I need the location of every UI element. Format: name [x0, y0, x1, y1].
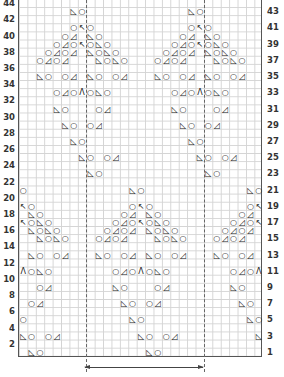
row-label-right: 21 [267, 185, 279, 195]
stitch-k2tog-icon: ◿ [238, 73, 246, 81]
row-label-left: 44 [0, 0, 15, 8]
stitch-ssk-icon: ◺ [170, 235, 178, 243]
stitch-yo-icon: ○ [95, 105, 103, 113]
stitch-ssk-icon: ◺ [213, 252, 221, 260]
row-label-right: 43 [267, 6, 279, 16]
row-label-right: 15 [267, 233, 279, 243]
stitch-sk2p-icon: ↖ [196, 24, 204, 32]
stitch-yo-icon: ○ [78, 8, 86, 16]
stitch-yo-icon: ○ [103, 57, 111, 65]
stitch-ssk-icon: ◺ [213, 57, 221, 65]
stitch-ssk-icon: ◺ [213, 89, 221, 97]
row-label-left: 28 [0, 128, 15, 138]
stitch-yo-icon: ○ [120, 284, 128, 292]
stitch-ssk-icon: ◺ [255, 333, 263, 341]
row-label-right: 19 [267, 201, 279, 211]
stitch-ssk-icon: ◺ [170, 105, 178, 113]
stitch-ssk-icon: ◺ [145, 349, 153, 357]
stitch-k2tog-icon: ◿ [246, 252, 254, 260]
stitch-yo-icon: ○ [196, 8, 204, 16]
stitch-ssk-icon: ◺ [27, 252, 35, 260]
stitch-ssk-icon: ◺ [112, 284, 120, 292]
stitch-yo-icon: ○ [221, 57, 229, 65]
stitch-yo-icon: ○ [44, 73, 52, 81]
row-label-left: 12 [0, 258, 15, 268]
row-label-left: 16 [0, 225, 15, 235]
row-label-right: 9 [267, 282, 273, 292]
stitch-yo-icon: ○ [179, 105, 187, 113]
stitch-k2tog-icon: ◿ [44, 284, 52, 292]
stitch-sk2p-icon: ↖ [78, 24, 86, 32]
stitch-k2tog-icon: ◿ [120, 235, 128, 243]
stitch-sk2p-icon: ↖ [255, 219, 263, 227]
stitch-yo-icon: ○ [255, 316, 263, 324]
stitch-yo-icon: ○ [61, 73, 69, 81]
stitch-k2tog-icon: ◿ [221, 105, 229, 113]
stitch-ssk-icon: ◺ [112, 57, 120, 65]
stitch-yo-icon: ○ [44, 235, 52, 243]
stitch-ssk-icon: ◺ [204, 73, 212, 81]
stitch-yo-icon: ○ [187, 89, 195, 97]
stitch-sk2p-icon: ↖ [137, 219, 145, 227]
row-label-left: 22 [0, 177, 15, 187]
row-label-right: 33 [267, 87, 279, 97]
stitch-ssk-icon: ◺ [154, 73, 162, 81]
stitch-yo-icon: ○ [103, 89, 111, 97]
stitch-k2tog-icon: ◿ [246, 227, 254, 235]
stitch-yo-icon: ○ [128, 268, 136, 276]
stitch-yo-icon: ○ [95, 73, 103, 81]
stitch-ssk-icon: ◺ [36, 73, 44, 81]
stitch-yo-icon: ○ [53, 89, 61, 97]
stitch-cdd-icon: Λ [19, 268, 27, 276]
stitch-yo-icon: ○ [36, 284, 44, 292]
stitch-cdd-icon: Λ [78, 89, 86, 97]
stitch-yo-icon: ○ [179, 235, 187, 243]
stitch-yo-icon: ○ [112, 268, 120, 276]
stitch-ssk-icon: ◺ [86, 49, 94, 57]
stitch-yo-icon: ○ [221, 154, 229, 162]
row-label-left: 4 [0, 323, 15, 333]
stitch-yo-icon: ○ [213, 235, 221, 243]
row-label-left: 26 [0, 144, 15, 154]
stitch-yo-icon: ○ [95, 235, 103, 243]
stitch-ssk-icon: ◺ [204, 49, 212, 57]
stitch-ssk-icon: ◺ [86, 170, 94, 178]
stitch-ssk-icon: ◺ [229, 57, 237, 65]
stitch-ssk-icon: ◺ [27, 227, 35, 235]
stitch-sk2p-icon: ↖ [78, 41, 86, 49]
stitch-ssk-icon: ◺ [145, 252, 153, 260]
stitch-yo-icon: ○ [221, 89, 229, 97]
stitch-k2tog-icon: ◿ [36, 300, 44, 308]
stitch-k2tog-icon: ◿ [187, 49, 195, 57]
stitch-cdd-icon: Λ [196, 89, 204, 97]
stitch-ssk-icon: ◺ [120, 300, 128, 308]
row-label-left: 8 [0, 290, 15, 300]
stitch-k2tog-icon: ◿ [179, 57, 187, 65]
stitch-ssk-icon: ◺ [145, 227, 153, 235]
stitch-yo-icon: ○ [187, 122, 195, 130]
row-label-right: 11 [267, 266, 279, 276]
stitch-ssk-icon: ◺ [19, 333, 27, 341]
knitting-chart-grid: ◺○○↖○○◿◺○○◿○↖○◺○○◿○◿◺○◺○○◿○◿◺○◺○◺○○◿◺○○◿… [18, 0, 262, 357]
stitch-k2tog-icon: ◿ [221, 235, 229, 243]
row-label-left: 18 [0, 209, 15, 219]
stitch-yo-icon: ○ [86, 154, 94, 162]
stitch-k2tog-icon: ◿ [69, 49, 77, 57]
stitch-sk2p-icon: ↖ [137, 203, 145, 211]
stitch-yo-icon: ○ [162, 235, 170, 243]
stitch-yo-icon: ○ [61, 235, 69, 243]
stitch-yo-icon: ○ [36, 252, 44, 260]
stitch-ssk-icon: ◺ [53, 105, 61, 113]
stitch-yo-icon: ○ [246, 300, 254, 308]
row-label-right: 29 [267, 120, 279, 130]
stitch-k2tog-icon: ◿ [238, 268, 246, 276]
stitch-yo-icon: ○ [78, 138, 86, 146]
stitch-ssk-icon: ◺ [78, 154, 86, 162]
stitch-yo-icon: ○ [213, 170, 221, 178]
row-label-right: 23 [267, 168, 279, 178]
stitch-k2tog-icon: ◿ [112, 154, 120, 162]
stitch-yo-icon: ○ [238, 252, 246, 260]
stitch-yo-icon: ○ [145, 300, 153, 308]
stitch-k2tog-icon: ◿ [44, 57, 52, 65]
stitch-ssk-icon: ◺ [204, 170, 212, 178]
